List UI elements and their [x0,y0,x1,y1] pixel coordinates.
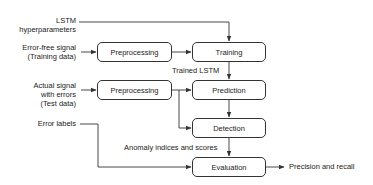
input-lstm-hyperparameters: LSTM hyperparameters [19,16,76,34]
input-actual-signal: Actual signal with errors (Test data) [33,81,76,108]
box-training: Training [192,42,266,62]
box-preprocessing-test: Preprocessing [97,80,172,100]
edge-hyperparams-to-training [79,22,229,41]
box-label: Prediction [212,86,245,95]
label-line: LSTM [19,16,76,25]
label-line: (Test data) [33,99,76,108]
box-evaluation: Evaluation [192,157,266,177]
box-preprocessing-train: Preprocessing [97,42,172,62]
box-label: Detection [213,124,245,133]
box-prediction: Prediction [192,80,266,100]
edge-label-anomaly-indices: Anomaly indices and scores [124,143,217,152]
output-precision-recall: Precision and recall [289,162,354,171]
label-line: (Training data) [22,52,76,61]
input-error-labels: Error labels [38,119,76,128]
box-label: Preprocessing [111,48,159,57]
box-detection: Detection [192,118,266,138]
input-error-free-signal: Error-free signal (Training data) [22,43,76,61]
label-line: Actual signal [33,81,76,90]
box-label: Preprocessing [111,86,159,95]
label-line: Error-free signal [22,43,76,52]
edge-preprocessing-to-detection [179,90,191,128]
edge-label-trained-lstm: Trained LSTM [172,66,219,75]
box-label: Training [216,48,243,57]
box-label: Evaluation [211,163,246,172]
label-line: with errors [33,90,76,99]
label-line: hyperparameters [19,25,76,34]
